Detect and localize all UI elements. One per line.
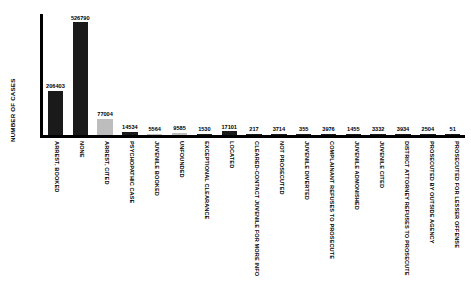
bar-value-label: 3976 (322, 126, 334, 133)
x-tick-slot: NONE (68, 141, 93, 283)
x-tick-label: CLEARED-CONTACT JUVENILE FOR MORE INFO (252, 141, 259, 276)
bar-value-label: 526790 (71, 15, 90, 22)
x-tick-slot: PROSECUTED BY OUTSIDE AGENCY (418, 141, 443, 283)
bar[interactable]: 3934 (395, 134, 410, 135)
x-tick-label: JUVENILE DIVERTED (302, 141, 309, 200)
bar-slot: 14534 (117, 14, 142, 135)
bar-value-label: 5564 (148, 126, 160, 133)
bar-slot: 9585 (167, 14, 192, 135)
bar-slot: 3332 (366, 14, 391, 135)
bar[interactable]: 17101 (222, 131, 237, 135)
bar-value-label: 3934 (397, 126, 409, 133)
bar-slot: 217 (242, 14, 267, 135)
x-tick-label: PSYCHOPATHIC CASE (127, 141, 134, 203)
x-tick-slot: JUVENILE BOOKED (143, 141, 168, 283)
bar[interactable]: 5564 (147, 134, 162, 135)
bar-value-label: 51 (450, 126, 456, 133)
bar-value-label: 206403 (46, 83, 65, 90)
x-tick-slot: ARREST, BOOKED (43, 141, 68, 283)
x-tick-slot: PROSECUTED FOR LESSER OFFENSE (443, 141, 468, 283)
bar[interactable]: 526790 (73, 22, 88, 135)
bar-slot: 206403 (43, 14, 68, 135)
x-tick-slot: LOCATED (218, 141, 243, 283)
bar-value-label: 77004 (97, 111, 113, 118)
x-tick-slot: UNFOUNDED (168, 141, 193, 283)
x-tick-label: NOT PROSECUTED (277, 141, 284, 195)
x-tick-slot: PSYCHOPATHIC CASE (118, 141, 143, 283)
bar-slot: 3714 (266, 14, 291, 135)
bar[interactable]: 77004 (97, 119, 112, 135)
bar-slot: 3976 (316, 14, 341, 135)
bar-value-label: 17101 (221, 124, 237, 131)
x-tick-slot: JUVENILE CITED (368, 141, 393, 283)
bar-slot: 526790 (68, 14, 93, 135)
x-tick-slot: JUVENILE DIVERTED (293, 141, 318, 283)
bar[interactable]: 14534 (122, 132, 137, 135)
bar-slot: 5564 (142, 14, 167, 135)
bar[interactable]: 1530 (197, 134, 212, 135)
x-tick-slot: JUVENILE ADMONISHED (343, 141, 368, 283)
bar-value-label: 14534 (122, 124, 138, 131)
bar-chart: NUMBER OF CASES 206403526790770041453455… (0, 0, 471, 286)
x-tick-slot: DISTRICT ATTORNEY REFUSES TO PROSECUTE (393, 141, 418, 283)
bar-slot: 2504 (415, 14, 440, 135)
bar[interactable]: 3976 (321, 134, 336, 135)
x-tick-label: UNFOUNDED (177, 141, 184, 178)
bar-slot: 17101 (217, 14, 242, 135)
bar-slot: 1455 (341, 14, 366, 135)
x-tick-label: JUVENILE BOOKED (152, 141, 159, 196)
bar-value-label: 1530 (198, 126, 210, 133)
x-tick-label: JUVENILE CITED (377, 141, 384, 188)
x-tick-label: EXCEPTIONAL CLEARANCE (202, 141, 209, 219)
bar-value-label: 355 (299, 126, 308, 133)
x-tick-label: LOCATED (227, 141, 234, 168)
x-tick-label: NONE (77, 141, 84, 158)
x-tick-slot: EXCEPTIONAL CLEARANCE (193, 141, 218, 283)
x-tick-label: COMPLAINANT REFUSES TO PROSECUTE (327, 141, 334, 259)
bar[interactable]: 2504 (420, 134, 435, 135)
bar-slot: 77004 (93, 14, 118, 135)
bar[interactable]: 1455 (346, 134, 361, 135)
x-tick-label: ARREST, BOOKED (52, 141, 59, 192)
bar-value-label: 217 (249, 126, 258, 133)
bar-slot: 355 (291, 14, 316, 135)
x-tick-label: JUVENILE ADMONISHED (352, 141, 359, 210)
bar[interactable]: 206403 (48, 91, 63, 135)
bar-value-label: 3714 (273, 126, 285, 133)
bar-value-label: 1455 (347, 126, 359, 133)
bar[interactable]: 3714 (271, 134, 286, 135)
x-axis-line (40, 135, 465, 138)
x-tick-label: ARREST, CITED (102, 141, 109, 185)
x-tick-slot: COMPLAINANT REFUSES TO PROSECUTE (318, 141, 343, 283)
x-tick-slot: ARREST, CITED (93, 141, 118, 283)
bar-slot: 1530 (192, 14, 217, 135)
bar[interactable]: 355 (296, 134, 311, 135)
x-tick-slot: CLEARED-CONTACT JUVENILE FOR MORE INFO (243, 141, 268, 283)
x-tick-label: PROSECUTED BY OUTSIDE AGENCY (427, 141, 434, 244)
bar-series: 2064035267907700414534556495851530171012… (43, 14, 465, 135)
bar[interactable]: 217 (246, 134, 261, 135)
bar-value-label: 2504 (422, 126, 434, 133)
bar[interactable]: 9585 (172, 133, 187, 135)
bar-slot: 3934 (391, 14, 416, 135)
y-axis-title: NUMBER OF CASES (6, 22, 20, 142)
bar-value-label: 3332 (372, 126, 384, 133)
x-tick-label: PROSECUTED FOR LESSER OFFENSE (452, 141, 459, 248)
x-tick-slot: NOT PROSECUTED (268, 141, 293, 283)
plot-area: 2064035267907700414534556495851530171012… (40, 14, 465, 138)
x-axis-tick-labels: ARREST, BOOKEDNONEARREST, CITEDPSYCHOPAT… (43, 141, 468, 283)
bar-slot: 51 (440, 14, 465, 135)
x-tick-label: DISTRICT ATTORNEY REFUSES TO PROSECUTE (402, 141, 409, 276)
bar-value-label: 9585 (173, 125, 185, 132)
bar[interactable]: 3332 (370, 134, 385, 135)
bar[interactable]: 51 (445, 134, 460, 135)
